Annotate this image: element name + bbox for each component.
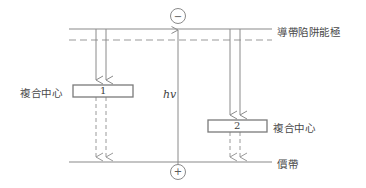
recombination-center-2-number: 2 bbox=[234, 120, 240, 131]
conduction-band-trap-label: 導帶陷阱能極 bbox=[277, 24, 340, 39]
recombination-center-1-number: 1 bbox=[100, 85, 106, 96]
electron-sign-label: − bbox=[173, 11, 183, 22]
valence-band-label: 價帶 bbox=[277, 156, 298, 171]
photon-energy-label: hv bbox=[163, 88, 176, 101]
figure-canvas: 導帶陷阱能極 價帶 複合中心 複合中心 hv 1 2 − + bbox=[0, 0, 366, 188]
recombination-center-left-label: 複合中心 bbox=[20, 85, 62, 100]
hole-sign-label: + bbox=[173, 166, 183, 177]
recombination-center-right-label: 複合中心 bbox=[273, 120, 315, 135]
